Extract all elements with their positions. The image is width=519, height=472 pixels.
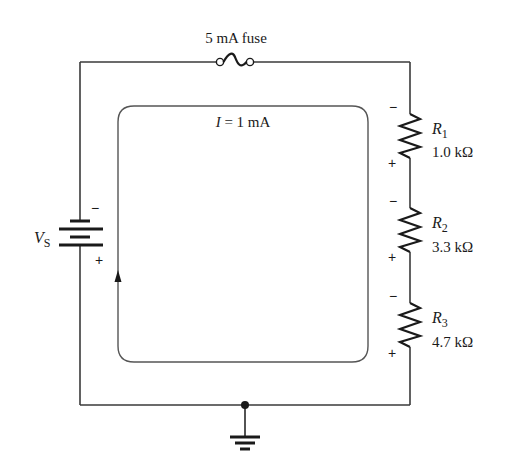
- battery-symbol: [59, 221, 103, 245]
- source-label: VS: [34, 229, 50, 250]
- fuse-symbol: [216, 54, 253, 66]
- r1-positive-sign: +: [388, 155, 396, 171]
- r3-name: R3: [431, 309, 448, 330]
- r2-positive-sign: +: [388, 249, 396, 265]
- r1-name: R1: [431, 120, 448, 141]
- r1-value: 1.0 kΩ: [432, 144, 473, 160]
- r3-negative-sign: −: [389, 288, 397, 304]
- r1-negative-sign: −: [389, 99, 397, 115]
- source-positive-sign: +: [95, 252, 103, 268]
- resistor-r1: − + R1 1.0 kΩ: [388, 99, 473, 171]
- resistor-r3: − + R3 4.7 kΩ: [388, 288, 473, 361]
- fuse-label: 5 mA fuse: [205, 30, 267, 46]
- resistor-r2: − + R2 3.3 kΩ: [388, 193, 473, 265]
- r3-value: 4.7 kΩ: [432, 334, 473, 350]
- r2-name: R2: [431, 214, 448, 235]
- current-arrowhead-icon: [115, 270, 122, 282]
- current-loop-arrow: [118, 106, 368, 362]
- r2-value: 3.3 kΩ: [432, 239, 473, 255]
- source-negative-sign: −: [91, 200, 99, 216]
- r3-positive-sign: +: [388, 345, 396, 361]
- ground-icon: [230, 401, 260, 449]
- circuit-diagram: 5 mA fuse VS − + I = 1 mA − + R1 1.0 kΩ …: [0, 0, 519, 472]
- current-label: I = 1 mA: [215, 114, 271, 130]
- r2-negative-sign: −: [389, 193, 397, 209]
